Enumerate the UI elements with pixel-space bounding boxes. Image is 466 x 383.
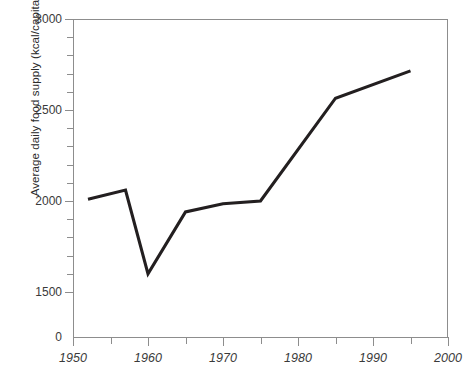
x-tick-major bbox=[223, 337, 224, 346]
data-series-line bbox=[73, 19, 448, 337]
x-tick-major bbox=[298, 337, 299, 346]
x-tick-minor bbox=[111, 337, 112, 344]
y-tick-label: 3000 bbox=[35, 12, 62, 26]
x-tick-label: 1970 bbox=[209, 351, 237, 365]
x-tick-major bbox=[148, 337, 149, 346]
x-tick-major bbox=[448, 337, 449, 346]
x-tick-label: 2000 bbox=[434, 351, 462, 365]
y-tick-label: 2500 bbox=[35, 103, 62, 117]
x-tick-label: 1960 bbox=[134, 351, 162, 365]
y-tick-major bbox=[65, 110, 73, 111]
y-tick-label-zero: 0 bbox=[55, 330, 62, 344]
x-tick-label: 1950 bbox=[59, 351, 87, 365]
x-tick-label: 1990 bbox=[359, 351, 387, 365]
y-tick-major bbox=[65, 201, 73, 202]
y-tick-label: 1500 bbox=[35, 285, 62, 299]
plot-area: 15002000250030000 1950196019701980199020… bbox=[73, 19, 448, 337]
x-tick-minor bbox=[336, 337, 337, 344]
x-tick-major bbox=[73, 337, 74, 346]
y-tick-major bbox=[65, 292, 73, 293]
chart-figure: Average daily food supply (kcal/capita) … bbox=[0, 0, 466, 383]
x-tick-minor bbox=[261, 337, 262, 344]
y-tick-major bbox=[65, 19, 73, 20]
x-tick-minor bbox=[411, 337, 412, 344]
x-tick-label: 1980 bbox=[284, 351, 312, 365]
x-tick-minor bbox=[186, 337, 187, 344]
x-tick-major bbox=[373, 337, 374, 346]
y-tick-label: 2000 bbox=[35, 194, 62, 208]
